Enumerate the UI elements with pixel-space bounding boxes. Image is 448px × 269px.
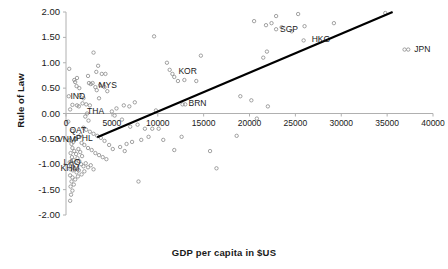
x-tick-label: 10000 [135, 118, 181, 128]
x-tick-label: 40000 [410, 118, 448, 128]
y-tick-label: 1.00 [18, 57, 60, 68]
x-tick-label: 30000 [318, 118, 364, 128]
y-tick-label: 2.00 [18, 6, 60, 17]
scatter-chart: Rule of Law GDP per capita in $US -2.00-… [0, 0, 448, 269]
point-label-mys: MYS [99, 80, 117, 90]
y-tick-label: -2.00 [18, 209, 60, 220]
point-label-phl: PHL [76, 133, 93, 143]
y-tick-label: -1.00 [18, 158, 60, 169]
plot-area [66, 12, 433, 215]
x-tick-label: 20000 [227, 118, 273, 128]
point-label-vnm: VNM [57, 134, 76, 144]
point-label-sgp: SGP [280, 24, 298, 34]
x-tick-label: 25000 [272, 118, 318, 128]
y-tick-label: -1.50 [18, 184, 60, 195]
point-label-hkg: HKG [312, 34, 330, 44]
point-label-tha: THA [87, 106, 104, 116]
y-tick-label: -0.50 [18, 133, 60, 144]
x-tick-label: 5000 [89, 118, 135, 128]
point-label-kor: KOR [178, 66, 196, 76]
x-tick-label: 35000 [364, 118, 410, 128]
point-label-ind: IND [70, 91, 85, 101]
x-tick-label: 15000 [181, 118, 227, 128]
y-tick-label: 0.50 [18, 82, 60, 93]
y-tick-label: 1.50 [18, 31, 60, 42]
point-label-khm: KHM [61, 163, 80, 173]
point-label-brn: BRN [189, 98, 207, 108]
point-label-jpn: JPN [414, 44, 430, 54]
